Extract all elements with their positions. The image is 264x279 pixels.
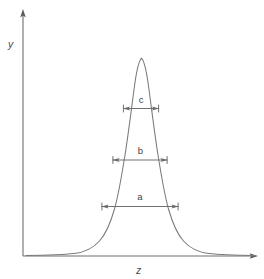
gaussian-peak-figure: c b a y z <box>0 0 264 279</box>
vertical-axis-group <box>20 9 26 256</box>
y-axis-label: y <box>7 38 14 50</box>
width-marker-b-label: b <box>138 145 143 156</box>
x-axis-label: z <box>135 264 142 276</box>
figure-container: c b a y z <box>0 0 264 279</box>
horizontal-axis-group <box>23 253 258 259</box>
distribution-curve <box>26 58 255 255</box>
width-marker-a-label: a <box>137 191 143 202</box>
width-marker-c-label: c <box>139 94 144 105</box>
width-marker-c: c <box>123 94 159 113</box>
